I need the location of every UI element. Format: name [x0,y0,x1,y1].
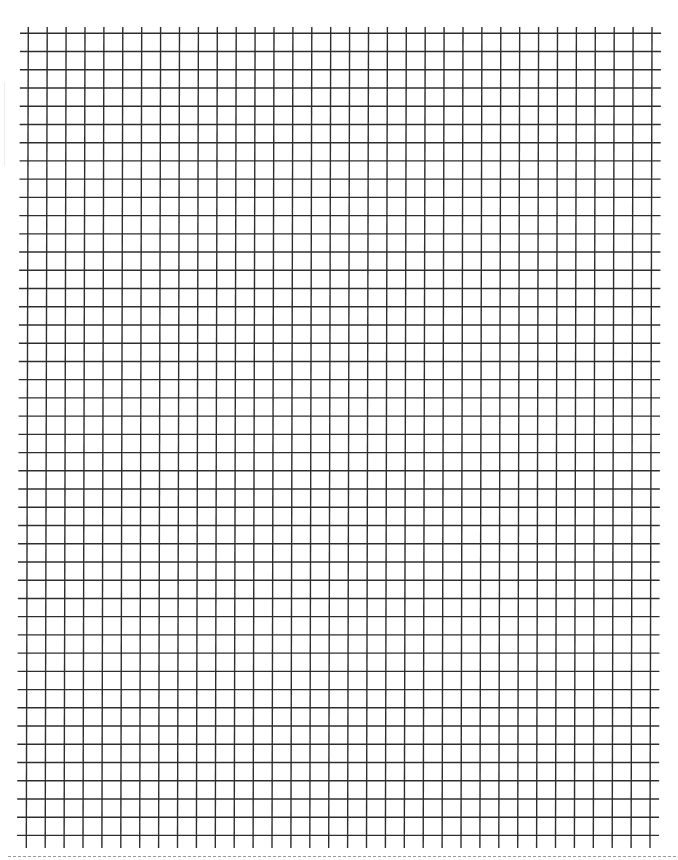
vertical-grid-line [215,27,217,848]
vertical-grid-line [159,27,161,848]
grid [0,0,678,860]
vertical-grid-line [650,27,652,848]
vertical-grid-line [83,27,85,848]
vertical-grid-line [518,27,520,848]
vertical-grid-line [196,27,198,848]
vertical-grid-line [404,27,406,848]
vertical-grid-line [556,27,558,848]
vertical-grid-line [272,27,274,848]
vertical-grid-line [385,27,387,848]
vertical-grid-line [631,27,633,848]
vertical-grid-line [26,27,28,848]
vertical-grid-line [480,27,482,848]
horizontal-grid-lines [17,33,661,835]
vertical-grid-line [234,27,236,848]
vertical-grid-line [102,27,104,848]
vertical-grid-line [423,27,425,848]
vertical-grid-line [178,27,180,848]
vertical-grid-line [499,27,501,848]
vertical-grid-line [442,27,444,848]
graph-paper-page [0,0,678,860]
vertical-grid-line [45,27,47,848]
vertical-grid-line [461,27,463,848]
vertical-grid-line [291,27,293,848]
vertical-grid-line [367,27,369,848]
vertical-grid-line [121,27,123,848]
vertical-grid-lines [26,27,652,848]
dotted-cut-line [8,856,676,857]
vertical-grid-line [64,27,66,848]
vertical-grid-line [593,27,595,848]
vertical-grid-line [140,27,142,848]
vertical-grid-line [612,27,614,848]
vertical-grid-line [574,27,576,848]
vertical-grid-line [348,27,350,848]
vertical-grid-line [310,27,312,848]
vertical-grid-line [253,27,255,848]
vertical-grid-line [537,27,539,848]
vertical-grid-line [329,27,331,848]
